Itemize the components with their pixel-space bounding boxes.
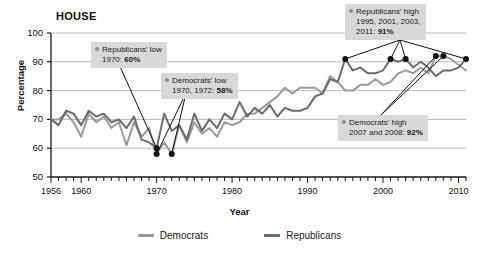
annotation-title: Democrats' high <box>349 118 407 127</box>
bullet-icon <box>349 9 353 13</box>
annotation-detail-years: 1995, 2001, 2003, <box>349 17 421 26</box>
annotation-detail-value: 60% <box>124 55 140 64</box>
annotation-detail-prefix: 1970: <box>95 55 124 64</box>
annotation-detail-value: 58% <box>216 86 232 95</box>
legend-swatch-democrats <box>138 234 154 238</box>
annotation-detail-prefix: 2011: <box>349 27 378 36</box>
chart-container: HOUSE Percentage Year 1009080706050 1956… <box>0 0 479 272</box>
legend-item-republicans: Republicans <box>264 230 341 241</box>
annotation-detail-prefix: 1970, 1972: <box>165 86 216 95</box>
annotation-democrats-low: Democrats' low 1970, 1972: 58% <box>161 73 238 99</box>
legend-label-republicans: Republicans <box>286 230 341 241</box>
annotation-title: Republicans' low <box>102 45 162 54</box>
legend-swatch-republicans <box>264 234 280 238</box>
annotation-detail-prefix: 2007 and 2008: <box>342 128 407 137</box>
chart-legend: Democrats Republicans <box>0 230 479 241</box>
annotation-democrats-high: Democrats' high 2007 and 2008: 92% <box>338 115 428 141</box>
annotation-title: Democrats' low <box>172 76 226 85</box>
legend-item-democrats: Democrats <box>138 230 208 241</box>
annotation-detail-value: 92% <box>407 128 423 137</box>
bullet-icon <box>165 78 169 82</box>
x-axis-ticks <box>51 177 466 183</box>
annotation-title: Republicans' high <box>356 7 419 16</box>
annotation-republicans-low: Republicans' low 1970: 60% <box>91 42 167 68</box>
bullet-icon <box>95 47 99 51</box>
bullet-icon <box>342 120 346 124</box>
annotation-detail-value: 91% <box>378 27 394 36</box>
legend-label-democrats: Democrats <box>160 230 208 241</box>
annotation-republicans-high: Republicans' high 1995, 2001, 2003, 2011… <box>345 4 426 40</box>
